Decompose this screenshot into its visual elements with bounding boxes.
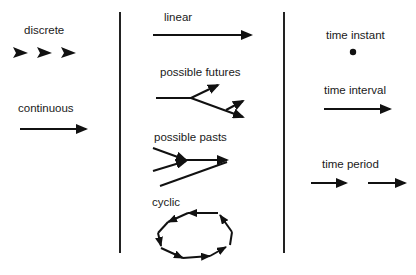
time-instant-dot-icon [350, 49, 356, 55]
label-time-instant: time instant [326, 29, 385, 41]
label-linear: linear [164, 11, 192, 23]
cyclic-loop-icon [158, 213, 232, 258]
label-possible-futures: possible futures [160, 66, 241, 78]
label-time-interval: time interval [324, 84, 386, 96]
label-possible-pasts: possible pasts [154, 131, 227, 143]
discrete-arrowheads-icon [13, 47, 76, 58]
label-discrete: discrete [24, 24, 64, 36]
label-time-period: time period [322, 158, 379, 170]
possible-futures-icon [156, 85, 243, 117]
label-cyclic: cyclic [152, 196, 180, 208]
label-continuous: continuous [18, 102, 74, 114]
possible-pasts-icon [153, 148, 227, 186]
